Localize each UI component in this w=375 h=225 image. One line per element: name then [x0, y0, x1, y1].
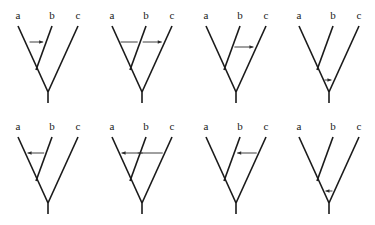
- taxon-label-c: c: [357, 120, 362, 132]
- taxon-label-c: c: [76, 9, 81, 21]
- taxon-label-c: c: [76, 120, 81, 132]
- gene-transfer-arrow: [237, 151, 257, 155]
- arrow-head-icon: [325, 189, 329, 193]
- tree-panel-2-2: abc: [110, 120, 175, 214]
- taxon-label-b: b: [237, 120, 243, 132]
- arrow-head-icon: [28, 151, 32, 155]
- branch-c: [142, 137, 172, 203]
- taxon-label-c: c: [264, 120, 269, 132]
- taxon-label-a: a: [16, 120, 21, 132]
- branch-b: [224, 26, 240, 70]
- branch-b: [130, 26, 146, 70]
- hgt-diagram: abcabcabcabcabcabcabcabc: [0, 0, 375, 225]
- branch-a: [18, 26, 48, 92]
- taxon-label-b: b: [330, 9, 336, 21]
- tree-panel-2-4: abc: [297, 120, 362, 214]
- branch-a: [112, 26, 142, 92]
- taxon-label-a: a: [297, 9, 302, 21]
- branch-a: [206, 137, 236, 203]
- arrow-head-icon: [39, 40, 43, 44]
- branch-a: [299, 26, 329, 92]
- branch-c: [236, 26, 266, 92]
- taxon-label-b: b: [143, 9, 149, 21]
- branch-c: [329, 26, 359, 92]
- branch-b: [224, 137, 240, 181]
- gene-transfer-arrow: [324, 78, 331, 82]
- gene-transfer-arrow: [28, 151, 45, 155]
- taxon-label-c: c: [357, 9, 362, 21]
- tree-panel-2-3: abc: [204, 120, 269, 214]
- branch-c: [236, 137, 266, 203]
- branch-a: [112, 137, 142, 203]
- arrow-head-icon: [122, 151, 126, 155]
- gene-transfer-arrow: [325, 189, 332, 193]
- branch-c: [329, 137, 359, 203]
- taxon-label-c: c: [170, 120, 175, 132]
- arrow-head-icon: [327, 78, 331, 82]
- taxon-label-b: b: [330, 120, 336, 132]
- branch-a: [206, 26, 236, 92]
- taxon-label-a: a: [110, 9, 115, 21]
- branch-a: [299, 137, 329, 203]
- gene-transfer-arrow: [122, 151, 163, 155]
- taxon-label-b: b: [49, 9, 55, 21]
- tree-panel-1-4: abc: [297, 9, 362, 103]
- branch-c: [48, 137, 78, 203]
- taxon-label-c: c: [264, 9, 269, 21]
- tree-panel-1-3: abc: [204, 9, 269, 103]
- tree-panel-1-2: abc: [110, 9, 175, 103]
- taxon-label-b: b: [237, 9, 243, 21]
- branch-b: [317, 26, 333, 70]
- branch-b: [36, 26, 52, 70]
- gene-transfer-arrow: [234, 45, 253, 49]
- branch-b: [130, 137, 146, 181]
- taxon-label-a: a: [16, 9, 21, 21]
- taxon-label-a: a: [110, 120, 115, 132]
- tree-panel-2-1: abc: [16, 120, 81, 214]
- taxon-label-b: b: [143, 120, 149, 132]
- branch-c: [48, 26, 78, 92]
- tree-panel-1-1: abc: [16, 9, 81, 103]
- gene-transfer-arrow: [30, 40, 44, 44]
- arrow-head-icon: [158, 40, 162, 44]
- taxon-label-b: b: [49, 120, 55, 132]
- branch-b: [317, 137, 333, 181]
- taxon-label-a: a: [297, 120, 302, 132]
- taxon-label-a: a: [204, 9, 209, 21]
- taxon-label-c: c: [170, 9, 175, 21]
- taxon-label-a: a: [204, 120, 209, 132]
- branch-c: [142, 26, 172, 92]
- arrow-head-icon: [237, 151, 241, 155]
- branch-a: [18, 137, 48, 203]
- branch-b: [36, 137, 52, 181]
- arrow-head-icon: [249, 45, 253, 49]
